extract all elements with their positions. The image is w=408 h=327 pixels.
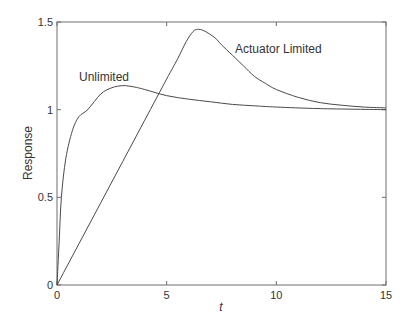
x-tick-label: 10: [270, 289, 282, 301]
series-lines: [57, 29, 386, 285]
y-axis-label: Response: [21, 126, 35, 180]
y-tick-label: 1: [47, 104, 53, 116]
x-tick-label: 0: [54, 289, 60, 301]
y-tick-label: 1.5: [38, 16, 53, 28]
y-axis-ticks: 00.511.5: [38, 16, 386, 291]
plot-frame: [57, 22, 386, 285]
y-tick-label: 0: [47, 279, 53, 291]
x-axis-label: t: [219, 300, 223, 314]
series-line-actuator-limited: [57, 29, 386, 285]
x-axis-ticks: 051015: [54, 22, 392, 301]
x-tick-label: 5: [164, 289, 170, 301]
chart-plot: 051015 00.511.5 t Response Unlimited Act…: [0, 0, 408, 327]
x-tick-label: 15: [380, 289, 392, 301]
annotation-unlimited: Unlimited: [79, 70, 129, 84]
annotation-actuator-limited: Actuator Limited: [235, 42, 322, 56]
y-tick-label: 0.5: [38, 191, 53, 203]
series-line-unlimited: [57, 86, 386, 285]
